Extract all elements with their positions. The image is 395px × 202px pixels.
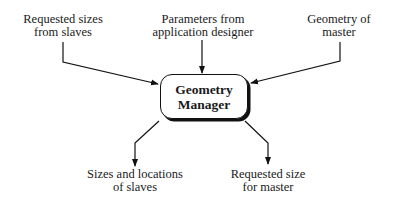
arrow-sizes-locations — [135, 121, 159, 166]
label-line: for master — [231, 181, 306, 194]
arrow-requested-sizes — [63, 42, 158, 84]
label-line: application designer — [152, 26, 253, 39]
arrow-geometry-of-master — [251, 42, 340, 83]
label-line: of slaves — [87, 181, 183, 194]
label-geometry-of-master: Geometry of master — [307, 13, 371, 39]
label-requested-size-master: Requested size for master — [231, 168, 306, 194]
geometry-manager-box: Geometry Manager — [160, 74, 248, 119]
geometry-manager-diagram: Requested sizes from slaves Parameters f… — [0, 0, 395, 202]
arrow-requested-size-master — [245, 121, 268, 164]
label-line: from slaves — [23, 26, 103, 39]
label-parameters: Parameters from application designer — [152, 13, 253, 39]
label-line: master — [307, 26, 371, 39]
box-title-line2: Manager — [178, 97, 230, 112]
label-requested-sizes: Requested sizes from slaves — [23, 13, 103, 39]
box-title-line1: Geometry — [175, 82, 233, 97]
label-sizes-locations: Sizes and locations of slaves — [87, 168, 183, 194]
